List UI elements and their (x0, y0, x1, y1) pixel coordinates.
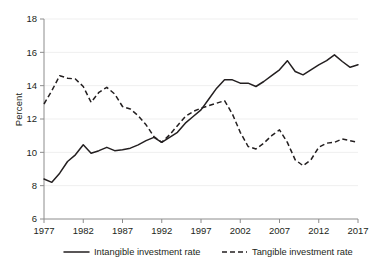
x-tick-label: 2007 (269, 225, 290, 236)
y-tick-label: 16 (26, 47, 37, 58)
y-tick-label: 6 (32, 213, 37, 224)
grid-lines (44, 19, 358, 186)
legend-label-intangible: Intangible investment rate (94, 247, 200, 257)
y-tick-label: 10 (26, 147, 37, 158)
x-axis-ticks: 197719821987199219972002200720122017 (33, 219, 368, 236)
legend-label-tangible: Tangible investment rate (252, 247, 353, 257)
y-tick-label: 8 (32, 180, 37, 191)
line-chart-canvas: 681012141618 197719821987199219972002200… (0, 0, 375, 269)
x-tick-label: 2012 (308, 225, 329, 236)
x-tick-label: 1987 (112, 225, 133, 236)
y-tick-label: 18 (26, 13, 37, 24)
x-tick-label: 1992 (151, 225, 172, 236)
y-tick-label: 14 (26, 80, 37, 91)
x-tick-label: 1977 (33, 225, 54, 236)
y-axis-label: Percent (13, 70, 24, 150)
y-tick-label: 12 (26, 113, 37, 124)
x-tick-label: 2002 (230, 225, 251, 236)
x-tick-label: 1997 (190, 225, 211, 236)
y-axis-ticks: 681012141618 (26, 13, 44, 224)
chart-legend: Intangible investment rateTangible inves… (64, 247, 353, 257)
chart-figure: Percent 681012141618 1977198219871992199… (0, 0, 375, 269)
x-tick-label: 1982 (73, 225, 94, 236)
x-tick-label: 2017 (347, 225, 368, 236)
